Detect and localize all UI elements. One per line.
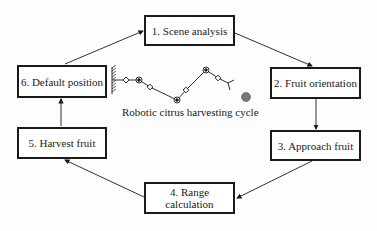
arrow-6-to-1 xyxy=(65,31,143,64)
step-label: 2. Fruit orientation xyxy=(274,77,357,89)
step-harvest-fruit: 5. Harvest fruit xyxy=(17,127,107,159)
step-label: 5. Harvest fruit xyxy=(29,137,96,149)
step-scene-analysis: 1. Scene analysis xyxy=(144,15,235,46)
arrow-4-to-5 xyxy=(65,160,144,197)
step-default-position: 6. Default position xyxy=(17,65,107,98)
step-label: 1. Scene analysis xyxy=(152,25,227,37)
step-fruit-orientation: 2. Fruit orientation xyxy=(270,67,361,99)
step-approach-fruit: 3. Approach fruit xyxy=(270,130,361,161)
step-label: 4. Range calculation xyxy=(165,186,213,210)
citrus-fruit-icon xyxy=(242,93,251,102)
step-label-line1: 4. Range xyxy=(165,186,213,198)
diagram-caption: Robotic citrus harvesting cycle xyxy=(122,106,259,118)
step-label: 3. Approach fruit xyxy=(278,140,353,152)
arrow-3-to-4 xyxy=(237,161,312,198)
harvesting-cycle-diagram: 1. Scene analysis 2. Fruit orientation 3… xyxy=(0,0,377,231)
robot-arm-icon xyxy=(112,65,234,103)
arrow-1-to-2 xyxy=(235,33,312,66)
step-range-calculation: 4. Range calculation xyxy=(144,182,235,214)
step-label-line2: calculation xyxy=(165,198,213,210)
step-label: 6. Default position xyxy=(21,76,103,88)
